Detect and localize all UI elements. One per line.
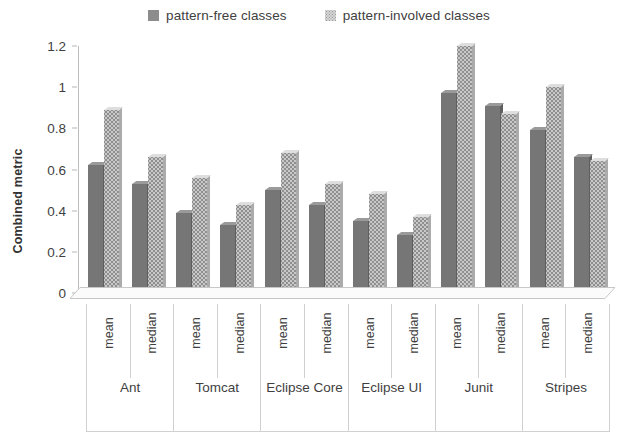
bar-side-face: [561, 84, 564, 293]
bar-pattern-involved: [369, 194, 384, 293]
y-axis-title-text: Combined metric: [11, 148, 25, 253]
bar-side-face: [428, 214, 431, 293]
bar-side-face: [605, 159, 608, 293]
bar-pattern-free: [353, 221, 368, 293]
bar-pattern-involved: [148, 157, 163, 293]
y-tick-label: 1.2: [47, 39, 66, 54]
legend-swatch-icon-pattern-involved: [325, 10, 336, 21]
statistic-label-median: median: [478, 304, 522, 378]
legend-label-pattern-involved: pattern-involved classes: [343, 8, 490, 23]
y-tick-mark: [72, 46, 77, 47]
bar-pattern-involved: [590, 161, 605, 293]
bar-side-face: [119, 107, 122, 293]
y-tick-mark: [72, 87, 77, 88]
bar-front-face: [148, 157, 163, 293]
statistic-label-text: median: [232, 313, 246, 354]
bar-pattern-free: [397, 235, 412, 293]
legend-swatch-icon-pattern-free: [148, 10, 159, 21]
bar-side-face: [384, 192, 387, 293]
bar-pattern-free: [530, 130, 545, 293]
bar-group: [521, 46, 609, 293]
bar-front-face: [309, 205, 324, 294]
bar-front-face: [441, 93, 456, 293]
bar-front-face: [88, 165, 103, 293]
statistic-row: meanmedian: [523, 304, 609, 378]
bar-group: [79, 46, 167, 293]
statistic-label-mean: mean: [87, 304, 130, 378]
bar-pattern-free: [265, 190, 280, 293]
statistic-label-median: median: [391, 304, 435, 378]
statistic-row: meanmedian: [174, 304, 260, 378]
bar-front-face: [413, 217, 428, 293]
bar-pair: [123, 46, 167, 293]
statistic-row: meanmedian: [261, 304, 347, 378]
bar-front-face: [220, 225, 235, 293]
bar-pattern-involved: [192, 178, 207, 293]
statistic-label-text: mean: [363, 317, 377, 348]
bar-pattern-free: [88, 165, 103, 293]
statistic-label-text: median: [406, 313, 420, 354]
y-axis-title: Combined metric: [8, 121, 28, 281]
statistic-row: meanmedian: [436, 304, 522, 378]
bar-front-face: [397, 235, 412, 293]
bar-pattern-involved: [501, 114, 516, 293]
bar-front-face: [281, 153, 296, 293]
bar-front-face: [530, 130, 545, 293]
bar-pattern-involved: [281, 153, 296, 293]
bar-front-face: [574, 157, 589, 293]
bar-pair: [300, 46, 344, 293]
bar-pattern-involved: [325, 184, 340, 293]
statistic-label-mean: mean: [436, 304, 479, 378]
statistic-row: meanmedian: [349, 304, 435, 378]
project-label: Junit: [436, 378, 522, 431]
chart-floor-3d: [70, 287, 615, 299]
bar-pattern-free: [441, 93, 456, 293]
statistic-label-mean: mean: [349, 304, 392, 378]
statistic-label-median: median: [304, 304, 348, 378]
bar-pair: [521, 46, 565, 293]
statistic-label-text: median: [581, 313, 595, 354]
bar-group: [167, 46, 255, 293]
bar-pair: [565, 46, 609, 293]
category-group-stripes: meanmedianStripes: [522, 304, 610, 432]
bar-pattern-free: [574, 157, 589, 293]
bar-pair: [256, 46, 300, 293]
category-group-tomcat: meanmedianTomcat: [173, 304, 260, 432]
chart-area: Combined metric 00.20.40.60.811.2 meanme…: [0, 26, 638, 437]
statistic-label-text: median: [319, 313, 333, 354]
bar-pair: [476, 46, 520, 293]
y-tick-mark: [72, 251, 77, 252]
statistic-row: meanmedian: [87, 304, 173, 378]
bar-front-face: [192, 178, 207, 293]
bar-side-face: [163, 154, 166, 293]
statistic-label-mean: mean: [261, 304, 304, 378]
bar-pattern-free: [309, 205, 324, 294]
bar-pair: [432, 46, 476, 293]
chart-legend: pattern-free classes pattern-involved cl…: [0, 4, 638, 26]
category-group-eclipse-core: meanmedianEclipse Core: [260, 304, 347, 432]
bar-front-face: [132, 184, 147, 293]
y-tick-mark: [72, 169, 77, 170]
y-tick-label: 0: [58, 286, 66, 301]
project-label: Ant: [87, 378, 173, 431]
bar-pattern-free: [176, 213, 191, 293]
bar-front-face: [369, 194, 384, 293]
bar-pattern-involved: [457, 46, 472, 293]
bar-side-face: [251, 202, 254, 293]
statistic-label-median: median: [565, 304, 609, 378]
y-tick-label: 0.4: [47, 203, 66, 218]
bar-pair: [211, 46, 255, 293]
statistic-label-mean: mean: [523, 304, 566, 378]
bar-front-face: [353, 221, 368, 293]
bar-group: [344, 46, 432, 293]
bar-side-face: [207, 175, 210, 293]
bar-pair: [344, 46, 388, 293]
y-tick-mark: [72, 210, 77, 211]
bar-pattern-free: [220, 225, 235, 293]
statistic-label-text: mean: [450, 317, 464, 348]
bar-pattern-involved: [236, 205, 251, 294]
statistic-label-text: mean: [188, 317, 202, 348]
bar-pair: [167, 46, 211, 293]
statistic-label-median: median: [217, 304, 261, 378]
bar-front-face: [236, 205, 251, 294]
